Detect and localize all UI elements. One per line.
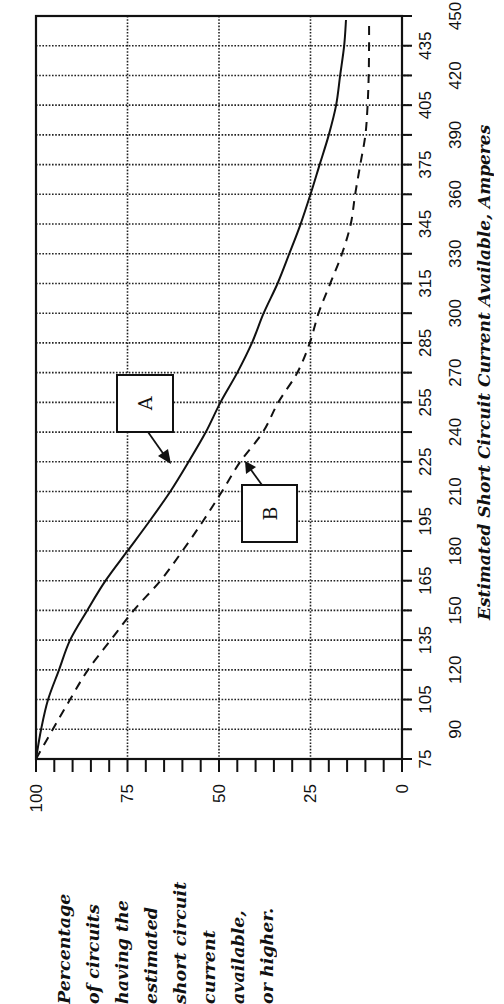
y-tick-label: 75: [118, 784, 137, 803]
y-tick-label: 25: [301, 784, 320, 803]
x-tick-label: 150: [446, 596, 465, 624]
y-axis-title-line: of circuits: [79, 808, 108, 1004]
y-tick-label: 100: [27, 784, 46, 812]
x-tick-label: 420: [446, 61, 465, 89]
x-tick-label: 255: [416, 388, 435, 416]
y-axis-title-line: having the: [108, 808, 137, 1004]
x-tick-label: 225: [416, 448, 435, 476]
grid: [36, 16, 411, 759]
x-axis: 7590105120135150165180195210225240255270…: [402, 2, 465, 769]
x-tick-label: 300: [446, 299, 465, 327]
x-tick-label: 135: [416, 626, 435, 654]
y-tick-label: 50: [210, 784, 229, 803]
y-axis-title-line: current: [195, 808, 224, 1004]
callout-b: B: [242, 461, 297, 542]
x-tick-label: 345: [416, 210, 435, 238]
x-tick-label: 450: [446, 2, 465, 30]
x-tick-label: 360: [446, 180, 465, 208]
y-axis-title-line: estimated: [137, 808, 166, 1004]
x-tick-label: 105: [416, 685, 435, 713]
x-tick-label: 240: [446, 418, 465, 446]
y-axis-title-line: Percentage: [50, 808, 79, 1004]
x-axis-title: Estimated Short Circuit Current Availabl…: [474, 100, 500, 645]
x-tick-label: 180: [446, 537, 465, 565]
x-tick-label: 90: [446, 720, 465, 739]
callout-b-label: B: [259, 507, 281, 521]
x-tick-label: 390: [446, 121, 465, 149]
x-tick-label: 285: [416, 329, 435, 357]
y-tick-label: 0: [393, 784, 412, 793]
y-axis: 0255075100: [27, 759, 412, 812]
callout-a-label: A: [134, 396, 156, 411]
x-tick-label: 120: [446, 656, 465, 684]
x-tick-label: 315: [416, 269, 435, 297]
x-tick-label: 375: [416, 150, 435, 178]
callout-a: A: [117, 375, 173, 464]
x-tick-label: 210: [446, 477, 465, 505]
x-tick-label: 405: [416, 91, 435, 119]
x-tick-label: 270: [446, 358, 465, 386]
series-line-a: [36, 20, 346, 759]
arrowhead-icon: [245, 461, 256, 474]
x-tick-label: 195: [416, 507, 435, 535]
x-tick-label: 435: [416, 32, 435, 60]
series-line-b: [36, 20, 369, 759]
series-lines: [36, 20, 369, 759]
x-tick-label: 330: [446, 240, 465, 268]
y-axis-title-line: available,: [224, 808, 253, 1004]
y-axis-title-line: or higher.: [253, 808, 282, 1004]
y-axis-title-line: short circuit: [166, 808, 195, 1004]
y-axis-title: Percentage of circuits having the estima…: [50, 808, 200, 1004]
x-tick-label: 165: [416, 566, 435, 594]
x-tick-label: 75: [416, 750, 435, 769]
